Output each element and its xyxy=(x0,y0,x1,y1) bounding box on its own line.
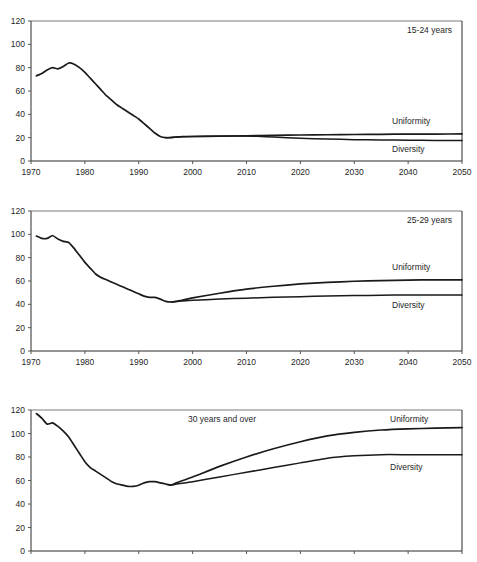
panel-title: 25-29 years xyxy=(407,215,452,225)
x-tick-label: 1980 xyxy=(75,357,94,367)
y-tick-label: 100 xyxy=(11,429,25,439)
x-tick-label: 2040 xyxy=(399,167,418,177)
x-tick-label: 2050 xyxy=(453,167,472,177)
chart-panel-30-over: 020406080100120UniformityDiversity30 yea… xyxy=(0,380,477,562)
y-tick-label: 60 xyxy=(16,276,26,286)
three-panel-chart-figure: 0204060801001201970198019902000201020202… xyxy=(0,0,477,562)
x-tick-label: 1980 xyxy=(75,167,94,177)
y-tick-label: 120 xyxy=(11,16,25,26)
series-line-uniformity xyxy=(36,414,462,487)
x-tick-label: 2030 xyxy=(345,357,364,367)
series-label-uniformity: Uniformity xyxy=(392,116,431,126)
x-tick-label: 2050 xyxy=(453,357,472,367)
chart-svg-1: 0204060801001201970198019902000201020202… xyxy=(0,190,477,380)
x-tick-label: 1970 xyxy=(22,357,41,367)
panel-title: 30 years and over xyxy=(188,414,256,424)
y-tick-label: 0 xyxy=(20,156,25,166)
y-tick-label: 20 xyxy=(16,323,26,333)
x-tick-label: 2040 xyxy=(399,357,418,367)
y-tick-label: 80 xyxy=(16,452,26,462)
series-label-diversity: Diversity xyxy=(392,144,425,154)
chart-panel-25-29: 0204060801001201970198019902000201020202… xyxy=(0,190,477,380)
series-label-uniformity: Uniformity xyxy=(392,262,431,272)
y-tick-label: 80 xyxy=(16,253,26,263)
y-tick-label: 100 xyxy=(11,39,25,49)
chart-svg-0: 0204060801001201970198019902000201020202… xyxy=(0,0,477,190)
y-tick-label: 100 xyxy=(11,229,25,239)
y-tick-label: 60 xyxy=(16,476,26,486)
y-tick-label: 80 xyxy=(16,63,26,73)
panel-title: 15-24 years xyxy=(407,25,452,35)
x-tick-label: 2000 xyxy=(183,167,202,177)
x-tick-label: 1970 xyxy=(22,167,41,177)
x-tick-label: 2030 xyxy=(345,167,364,177)
x-tick-label: 2000 xyxy=(183,357,202,367)
y-tick-label: 20 xyxy=(16,523,26,533)
chart-svg-2: 020406080100120UniformityDiversity30 yea… xyxy=(0,380,477,562)
x-tick-label: 1990 xyxy=(129,167,148,177)
y-tick-label: 0 xyxy=(20,346,25,356)
y-tick-label: 20 xyxy=(16,133,26,143)
y-tick-label: 40 xyxy=(16,299,26,309)
series-label-diversity: Diversity xyxy=(392,300,425,310)
x-tick-label: 2010 xyxy=(237,167,256,177)
x-tick-label: 2020 xyxy=(291,357,310,367)
y-tick-label: 40 xyxy=(16,109,26,119)
y-tick-label: 120 xyxy=(11,206,25,216)
x-tick-label: 2010 xyxy=(237,357,256,367)
y-tick-label: 60 xyxy=(16,86,26,96)
y-tick-label: 0 xyxy=(20,546,25,556)
x-tick-label: 2020 xyxy=(291,167,310,177)
x-tick-label: 1990 xyxy=(129,357,148,367)
series-line-diversity xyxy=(166,136,462,141)
y-tick-label: 120 xyxy=(11,405,25,415)
series-label-uniformity: Uniformity xyxy=(390,414,429,424)
series-label-diversity: Diversity xyxy=(390,462,423,472)
series-line-uniformity xyxy=(36,63,462,138)
y-tick-label: 40 xyxy=(16,499,26,509)
chart-panel-15-24: 0204060801001201970198019902000201020202… xyxy=(0,0,477,190)
